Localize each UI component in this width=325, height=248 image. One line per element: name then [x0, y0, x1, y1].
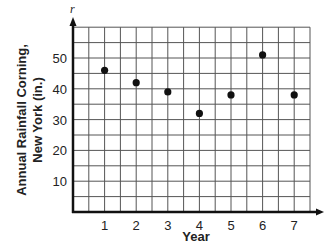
y-tick-labels: 1020304050 — [53, 51, 67, 189]
y-tick-label: 40 — [53, 82, 67, 97]
data-point — [164, 88, 171, 95]
x-tick-label: 1 — [101, 218, 108, 233]
y-axis-title: Annual Rainfall Corning, New York (in.) — [14, 44, 45, 196]
x-tick-label: 2 — [133, 218, 140, 233]
y-tick-label: 20 — [53, 143, 67, 158]
axes — [70, 17, 325, 216]
x-tick-label: 5 — [227, 218, 234, 233]
x-axis-title: Year — [182, 229, 209, 244]
y-axis-title-line-1: Annual Rainfall Corning, — [14, 44, 29, 196]
grid-lines — [73, 27, 310, 212]
y-tick-label: 50 — [53, 51, 67, 66]
y-tick-label: 30 — [53, 113, 67, 128]
y-variable-label: r — [70, 2, 75, 16]
data-point — [196, 110, 203, 117]
x-tick-label: 6 — [259, 218, 266, 233]
data-point — [133, 79, 140, 86]
x-axis-arrow-icon — [316, 209, 324, 216]
x-tick-label: 3 — [164, 218, 171, 233]
x-tick-label: 7 — [291, 218, 298, 233]
data-point — [259, 51, 266, 58]
y-tick-label: 10 — [53, 174, 67, 189]
scatter-chart: 1020304050 1234567 r Year Annual Rainfal… — [0, 0, 325, 248]
y-axis-title-line-2: New York (in.) — [30, 77, 45, 162]
y-axis-arrow-icon — [70, 17, 77, 26]
data-point — [227, 91, 234, 98]
data-point — [291, 91, 298, 98]
data-point — [101, 67, 108, 74]
